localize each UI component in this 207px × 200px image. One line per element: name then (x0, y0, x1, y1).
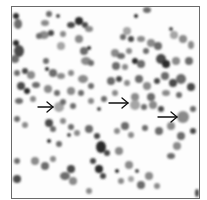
cell-field (12, 7, 199, 198)
cells (12, 7, 199, 197)
micrograph-panel (11, 6, 200, 199)
